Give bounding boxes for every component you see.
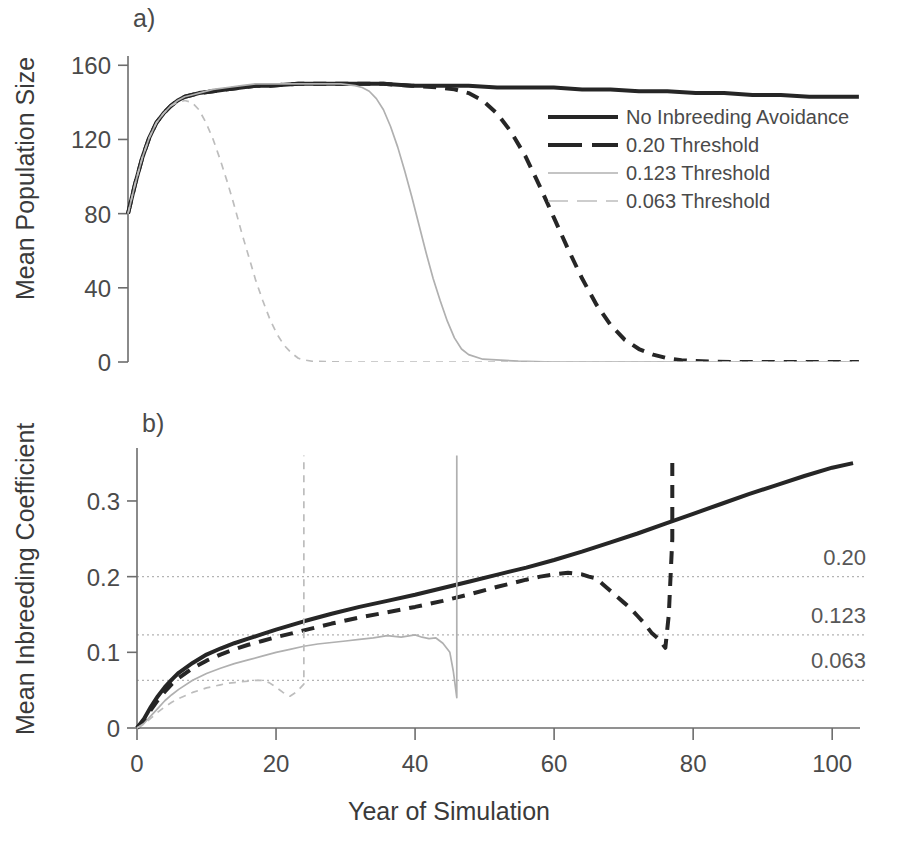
threshold-value-label: 0.063 (811, 648, 866, 673)
panel-b-x-tick-label: 0 (130, 750, 143, 777)
panel-b-x-tick-label: 100 (812, 750, 852, 777)
panel-b-x-tick-label: 80 (680, 750, 707, 777)
threshold-value-label: 0.123 (811, 603, 866, 628)
panel-b-label: b) (142, 409, 164, 437)
threshold-value-label: 0.20 (823, 545, 866, 570)
panel-a-label: a) (133, 4, 155, 32)
panel-a-y-axis-title: Mean Population Size (11, 57, 39, 300)
panel-a-y-tick-label: 80 (84, 201, 111, 228)
panel-b-x-axis-title: Year of Simulation (348, 797, 550, 825)
inbreeding-simulation-figure: a) Mean Population Size 04080120160 No I… (0, 0, 898, 849)
legend-label-4: 0.063 Threshold (626, 190, 770, 212)
panel-a-y-tick-label: 0 (98, 349, 111, 376)
legend-label-2: 0.20 Threshold (626, 134, 759, 156)
panel-b-y-tick-label: 0.3 (87, 488, 120, 515)
panel-a-y-tick-label: 120 (71, 126, 111, 153)
panel-b-y-tick-label: 0 (107, 715, 120, 742)
panel-a-y-tick-label: 160 (71, 52, 111, 79)
panel-a-y-tick-label: 40 (84, 275, 111, 302)
panel-b-y-tick-label: 0.2 (87, 564, 120, 591)
panel-b-y-tick-label: 0.1 (87, 639, 120, 666)
legend-label-3: 0.123 Threshold (626, 162, 770, 184)
panel-b-x-tick-label: 40 (402, 750, 429, 777)
legend-label-1: No Inbreeding Avoidance (626, 106, 849, 128)
panel-b-y-axis-title: Mean Inbreeding Coefficient (11, 423, 39, 735)
panel-b-x-tick-label: 20 (263, 750, 290, 777)
panel-b-x-tick-label: 60 (541, 750, 568, 777)
